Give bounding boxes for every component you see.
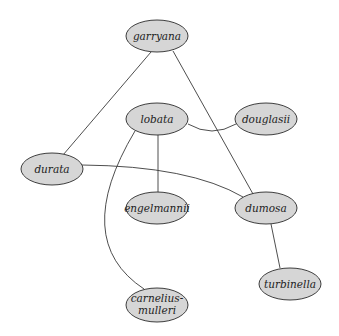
node-label-line2: mulleri bbox=[138, 304, 176, 316]
node-label: douglasii bbox=[242, 113, 290, 125]
node-durata: durata bbox=[21, 153, 83, 185]
node-label: durata bbox=[34, 163, 69, 175]
node-label: turbinella bbox=[264, 278, 316, 290]
node-dumosa: dumosa bbox=[235, 192, 297, 224]
node-label-line1: carnelius- bbox=[131, 292, 184, 304]
node-garryana: garryana bbox=[126, 20, 188, 52]
edge-lobata-douglasii bbox=[188, 124, 236, 131]
network-diagram: garryana lobata douglasii durata engelma… bbox=[0, 0, 339, 336]
node-turbinella: turbinella bbox=[259, 268, 321, 300]
node-douglasii: douglasii bbox=[235, 103, 297, 135]
edge-dumosa-turbinella bbox=[271, 224, 280, 268]
node-engelmannii: engelmannii bbox=[124, 192, 190, 224]
node-lobata: lobata bbox=[126, 103, 188, 135]
node-label: dumosa bbox=[245, 202, 286, 214]
node-label: garryana bbox=[133, 30, 181, 42]
node-label: lobata bbox=[140, 113, 173, 125]
edge-garryana-durata bbox=[63, 52, 151, 155]
node-carnelius-mulleri: carnelius- mulleri bbox=[126, 288, 188, 322]
node-label: engelmannii bbox=[124, 202, 190, 214]
